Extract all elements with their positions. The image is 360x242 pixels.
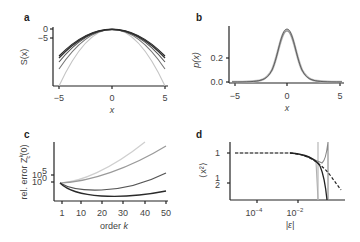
figure: a 0 −5 −5 0 5 x S(x) b 0.2 0.0 −5 0 <box>0 0 360 242</box>
panel-d-curve-light <box>235 153 318 200</box>
panel-d-label: d <box>196 129 202 140</box>
panel-a-ytick-1: −5 <box>38 33 48 43</box>
panel-d-ytick-1-den: 2 <box>215 180 220 190</box>
panel-d-xlabel: |ε| <box>286 220 295 230</box>
panel-c-xlabel: order k <box>100 221 129 231</box>
panel-d: d 1 1 2 10−4 10−2 |ε| ⟨x²⟩ <box>196 129 345 230</box>
panel-c: c 10 5 10 0 1 10 20 30 40 50 order k rel… <box>18 129 171 231</box>
panel-b-ytick-1: 0.0 <box>210 77 223 87</box>
panel-c-xtick-0: 1 <box>59 208 64 218</box>
panel-a-curve-lightest <box>59 29 165 86</box>
panel-b-xtick-1: 0 <box>284 91 289 101</box>
panel-b-xtick-0: −5 <box>230 91 240 101</box>
panel-d-ylabel: ⟨x²⟩ <box>198 162 208 178</box>
panel-d-xtick-0: 10−4 <box>246 207 264 218</box>
panel-c-xtick-4: 40 <box>140 208 150 218</box>
svg-text:rel. error Zkc(0): rel. error Zkc(0) <box>18 144 31 199</box>
panel-c-xtick-1: 10 <box>76 208 86 218</box>
panel-b-curve-1 <box>232 31 342 82</box>
panel-a: a 0 −5 −5 0 5 x S(x) <box>19 12 168 115</box>
panel-b-xtick-2: 5 <box>337 91 342 101</box>
panel-a-xtick-1: 0 <box>109 93 114 103</box>
panel-a-ylabel: S(x) <box>19 49 29 66</box>
panel-c-curve-lightest <box>60 142 145 183</box>
panel-d-xtick-1: 10−2 <box>287 207 305 218</box>
panel-c-ylabel: rel. error Zkc(0) <box>18 144 31 199</box>
panel-b-xlabel: x <box>284 103 290 113</box>
panel-c-xtick-5: 50 <box>161 208 171 218</box>
panel-c-xtick-2: 20 <box>97 208 107 218</box>
panel-c-ytick-1-exp: 0 <box>42 173 47 183</box>
panel-c-xtick-3: 30 <box>118 208 128 218</box>
panel-a-xlabel: x <box>109 105 115 115</box>
panel-a-xtick-0: −5 <box>54 93 64 103</box>
panel-c-label: c <box>24 129 30 140</box>
panel-d-curve-dark <box>290 153 327 200</box>
panel-a-label: a <box>24 12 30 23</box>
panel-b-ytick-0: 0.2 <box>210 53 223 63</box>
panel-a-curve-1 <box>59 30 165 59</box>
panel-a-curve-0 <box>59 29 165 56</box>
panel-b-curve-band <box>232 30 342 82</box>
panel-d-ytick-0: 1 <box>215 148 220 158</box>
panel-c-ytick-1: 10 <box>32 177 42 187</box>
panel-b-curve-2 <box>232 29 342 82</box>
panel-b-label: b <box>196 12 202 23</box>
panel-b-ylabel: p(x) <box>191 52 201 69</box>
panel-a-curve-3 <box>59 30 165 70</box>
panel-a-xtick-2: 5 <box>162 93 167 103</box>
panel-b: b 0.2 0.0 −5 0 5 x p(x) <box>191 12 344 113</box>
